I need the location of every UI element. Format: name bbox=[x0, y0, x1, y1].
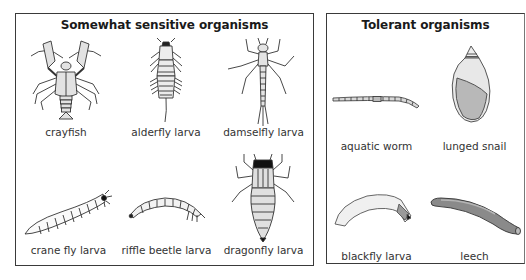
organism-label: riffle beetle larva bbox=[119, 244, 214, 256]
organism-label: damselfly larva bbox=[216, 126, 311, 138]
organism-label: aquatic worm bbox=[329, 140, 424, 152]
dragonfly-larva-icon bbox=[216, 154, 311, 249]
organism-crayfish: crayfish bbox=[21, 36, 111, 146]
crane-fly-larva-icon bbox=[21, 154, 116, 249]
organism-alderfly-larva: alderfly larva bbox=[121, 36, 211, 146]
organism-label: dragonfly larva bbox=[216, 244, 311, 256]
organism-aquatic-worm: aquatic worm bbox=[329, 44, 424, 154]
organism-label: blackfly larva bbox=[329, 250, 424, 262]
organism-crane-fly-larva: crane fly larva bbox=[21, 154, 116, 264]
organism-label: leech bbox=[427, 250, 522, 262]
riffle-beetle-larva-icon bbox=[119, 154, 214, 249]
organism-lunged-snail: lunged snail bbox=[427, 44, 522, 154]
tolerant-organisms-panel: Tolerant organisms aquatic worm lunged s… bbox=[326, 13, 525, 264]
panel-title: Tolerant organisms bbox=[327, 18, 524, 32]
organism-label: crane fly larva bbox=[21, 244, 116, 256]
organism-label: alderfly larva bbox=[121, 126, 211, 138]
leech-icon bbox=[427, 164, 522, 244]
lunged-snail-icon bbox=[427, 44, 522, 139]
organism-leech: leech bbox=[427, 164, 522, 264]
organism-dragonfly-larva: dragonfly larva bbox=[216, 154, 311, 264]
organism-riffle-beetle-larva: riffle beetle larva bbox=[119, 154, 214, 264]
damselfly-larva-icon bbox=[216, 36, 311, 131]
sensitive-organisms-panel: Somewhat sensitive organisms c bbox=[15, 13, 314, 266]
aquatic-worm-icon bbox=[329, 44, 424, 139]
panel-title: Somewhat sensitive organisms bbox=[16, 18, 313, 32]
crayfish-icon bbox=[21, 36, 111, 131]
organism-blackfly-larva: blackfly larva bbox=[329, 164, 424, 264]
organism-damselfly-larva: damselfly larva bbox=[216, 36, 311, 146]
alderfly-larva-icon bbox=[121, 36, 211, 131]
organism-label: crayfish bbox=[21, 126, 111, 138]
blackfly-larva-icon bbox=[329, 164, 424, 244]
organism-label: lunged snail bbox=[427, 140, 522, 152]
